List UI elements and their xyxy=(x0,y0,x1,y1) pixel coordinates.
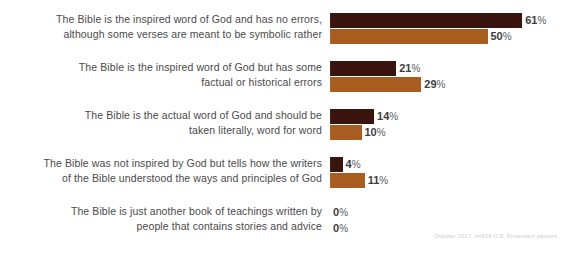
bar-line: 4% xyxy=(330,157,571,172)
bar-value-label: 4% xyxy=(346,157,361,172)
bar-series-1[interactable] xyxy=(330,13,522,28)
category-label: The Bible was not inspired by God but te… xyxy=(0,152,330,186)
chart-row: The Bible is the inspired word of God bu… xyxy=(0,56,571,104)
bar-group: 0% 0% xyxy=(330,200,571,248)
bar-series-2[interactable] xyxy=(330,125,362,140)
bar-chart: The Bible is the inspired word of God an… xyxy=(0,0,571,255)
bar-value-label: 10% xyxy=(365,125,386,140)
bar-series-2[interactable] xyxy=(330,29,488,44)
bar-value-label: 0% xyxy=(333,205,348,220)
bar-value-label: 29% xyxy=(424,77,445,92)
bar-group: 4% 11% xyxy=(330,152,571,200)
bar-series-1[interactable] xyxy=(330,157,343,172)
category-label: The Bible is the inspired word of God an… xyxy=(0,8,330,42)
bar-series-1[interactable] xyxy=(330,109,374,124)
chart-row: The Bible is the actual word of God and … xyxy=(0,104,571,152)
chart-row: The Bible is just another book of teachi… xyxy=(0,200,571,248)
category-label: The Bible is the actual word of God and … xyxy=(0,104,330,138)
bar-group: 61% 50% xyxy=(330,8,571,56)
bar-value-label: 14% xyxy=(377,109,398,124)
bar-line: 61% xyxy=(330,13,571,28)
bar-line: 0% xyxy=(330,205,571,220)
bar-line: 29% xyxy=(330,77,571,92)
bar-value-label: 21% xyxy=(399,61,420,76)
bar-line: 21% xyxy=(330,61,571,76)
bar-value-label: 0% xyxy=(333,221,348,236)
bar-group: 21% 29% xyxy=(330,56,571,104)
bar-series-1[interactable] xyxy=(330,61,396,76)
chart-footnote: October 2017, n=619 U.S. Protestant past… xyxy=(434,233,557,239)
category-label: The Bible is the inspired word of God bu… xyxy=(0,56,330,90)
bar-group: 14% 10% xyxy=(330,104,571,152)
category-label: The Bible is just another book of teachi… xyxy=(0,200,330,234)
chart-row: The Bible was not inspired by God but te… xyxy=(0,152,571,200)
bar-value-label: 61% xyxy=(525,13,546,28)
bar-value-label: 50% xyxy=(491,29,512,44)
chart-row: The Bible is the inspired word of God an… xyxy=(0,8,571,56)
bar-line: 50% xyxy=(330,29,571,44)
bar-line: 11% xyxy=(330,173,571,188)
bar-series-2[interactable] xyxy=(330,173,365,188)
bar-value-label: 11% xyxy=(368,173,389,188)
bar-line: 14% xyxy=(330,109,571,124)
bar-series-2[interactable] xyxy=(330,77,421,92)
bar-line: 10% xyxy=(330,125,571,140)
chart-rows: The Bible is the inspired word of God an… xyxy=(0,8,571,248)
